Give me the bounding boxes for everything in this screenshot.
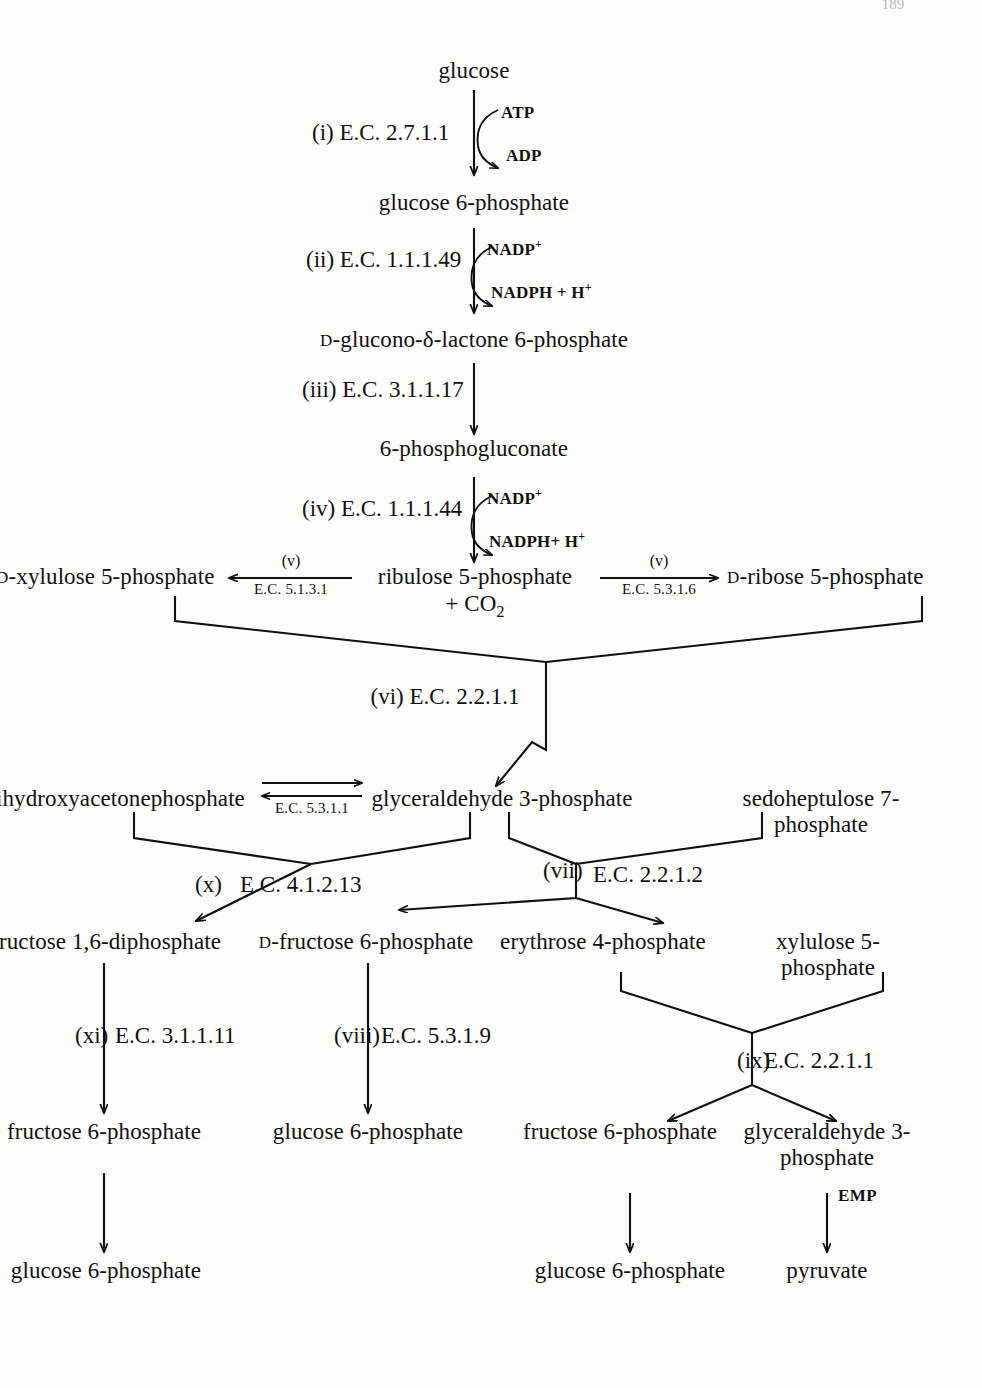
metabolite-pyruvate: pyruvate <box>786 1258 867 1284</box>
metabolite-d-glucono-lactone-6-phosphate: D-glucono-δ-lactone 6-phosphate <box>320 327 628 353</box>
step-vi-ec: E.C. 2.2.1.1 <box>410 684 520 709</box>
step-v-right-ec: E.C. 5.3.1.6 <box>622 581 696 598</box>
cofactor-atp: ATP <box>501 103 534 122</box>
stereo-prefix-d: D <box>727 568 740 587</box>
metabolite-dihydroxyacetonephosphate: ihydroxyacetonephosphate <box>0 786 245 812</box>
metabolite-co2: + CO2 <box>445 591 504 621</box>
step-vii-roman: (vii) <box>543 858 583 884</box>
step-viii-ec: E.C. 5.3.1.9 <box>381 1023 491 1049</box>
pathway-diagram-page: 189 <box>0 0 982 1388</box>
cofactor-nadp-plus-1: NADP+ <box>487 238 542 259</box>
metabolite-xylulose-5-phosphate: xylulose 5-phosphate <box>751 929 905 981</box>
metabolite-glyceraldehyde-3-phosphate-2: glyceraldehyde 3-phosphate <box>732 1119 922 1171</box>
step-label-vi: (vi) E.C. 2.2.1.1 <box>371 684 520 710</box>
step-x-ec: E.C. 4.1.2.13 <box>240 872 361 898</box>
step-v-left-roman: (v) <box>282 552 301 570</box>
metabolite-fructose-1-6-diphosphate: ructose 1,6-diphosphate <box>0 929 221 955</box>
metabolite-erythrose-4-phosphate: erythrose 4-phosphate <box>500 929 706 955</box>
step-tpi-ec: E.C. 5.3.1.1 <box>275 800 349 817</box>
cofactor-nadp-plus-2: NADP+ <box>487 487 542 508</box>
metabolite-6-phosphogluconate: 6-phosphogluconate <box>380 436 568 462</box>
step-xi-ec: E.C. 3.1.1.11 <box>115 1023 236 1049</box>
step-i-ec: E.C. 2.7.1.1 <box>339 120 449 145</box>
metabolite-d-xylulose-5-phosphate: D-xylulose 5-phosphate <box>0 564 214 590</box>
metabolite-sedoheptulose-7-phosphate: sedoheptulose 7-phosphate <box>741 786 902 838</box>
step-v-right-roman: (v) <box>650 552 669 570</box>
metabolite-glucose-6-phosphate-mid: glucose 6-phosphate <box>273 1119 463 1145</box>
step-vi-roman: (vi) <box>371 684 404 709</box>
step-label-ii: (ii) E.C. 1.1.1.49 <box>306 247 461 273</box>
step-label-iv: (iv) E.C. 1.1.1.44 <box>302 496 462 522</box>
cofactor-nadph-h-1: NADPH + H+ <box>491 281 592 302</box>
cofactor-adp: ADP <box>506 146 542 165</box>
step-ii-roman: (ii) <box>306 247 334 272</box>
stereo-prefix-d: D <box>320 331 333 350</box>
metabolite-glucose-6-phosphate-bottom-mid: glucose 6-phosphate <box>535 1258 725 1284</box>
metabolite-d-ribose-5-phosphate: D-ribose 5-phosphate <box>727 564 924 590</box>
step-iii-roman: (iii) <box>302 377 337 402</box>
step-ii-ec: E.C. 1.1.1.49 <box>340 247 461 272</box>
step-ix-ec: E.C. 2.2.1.1 <box>764 1048 874 1074</box>
step-xi-roman: (xi) <box>75 1023 108 1049</box>
metabolite-glucose-6-phosphate-bottom-left: glucose 6-phosphate <box>11 1258 201 1284</box>
step-i-roman: (i) <box>312 120 334 145</box>
metabolite-glucose-6-phosphate-1: glucose 6-phosphate <box>379 190 569 216</box>
step-x-roman: (x) <box>195 872 222 898</box>
metabolite-fructose-6-phosphate-left: fructose 6-phosphate <box>7 1119 201 1145</box>
step-label-iii: (iii) E.C. 3.1.1.17 <box>302 377 464 403</box>
metabolite-glucose: glucose <box>439 58 510 84</box>
stereo-prefix-d: D <box>259 933 272 952</box>
pathway-label-emp: EMP <box>838 1186 877 1205</box>
step-viii-roman: (viii) <box>334 1023 380 1049</box>
metabolite-d-fructose-6-phosphate: D-fructose 6-phosphate <box>259 929 474 955</box>
step-vii-ec: E.C. 2.2.1.2 <box>593 862 703 888</box>
step-v-left-ec: E.C. 5.1.3.1 <box>254 581 328 598</box>
metabolite-ribulose-5-phosphate: ribulose 5-phosphate <box>378 564 572 590</box>
step-iv-roman: (iv) <box>302 496 335 521</box>
step-label-i: (i) E.C. 2.7.1.1 <box>312 120 449 146</box>
metabolite-fructose-6-phosphate-right: fructose 6-phosphate <box>523 1119 717 1145</box>
page-number: 189 <box>882 0 905 13</box>
step-iv-ec: E.C. 1.1.1.44 <box>341 496 462 521</box>
metabolite-glyceraldehyde-3-phosphate: glyceraldehyde 3-phosphate <box>371 786 632 812</box>
stereo-prefix-d: D <box>0 568 9 587</box>
cofactor-nadph-h-2: NADPH+ H+ <box>489 530 585 551</box>
step-iii-ec: E.C. 3.1.1.17 <box>342 377 463 402</box>
